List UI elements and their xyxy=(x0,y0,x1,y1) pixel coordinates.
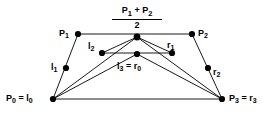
label-r1: r1 xyxy=(167,41,174,50)
dot-p2 xyxy=(189,31,195,37)
label-p0: P0 = l0 xyxy=(6,94,33,103)
label-p1: P1 xyxy=(59,29,69,38)
midpoint-fraction-label: P1 + P2 2 xyxy=(112,6,162,30)
fraction-denominator: 2 xyxy=(112,20,162,30)
label-p2: P2 xyxy=(198,29,208,38)
dot-l3-r0 xyxy=(134,51,140,57)
dot-p1 xyxy=(75,31,81,37)
dot-midpoint-p1-p2 xyxy=(134,34,141,41)
dot-l2 xyxy=(99,50,105,56)
dot-r2 xyxy=(205,65,211,71)
label-l3-r0: l3 = r0 xyxy=(117,62,141,71)
label-l2: l2 xyxy=(88,42,94,51)
dot-l1 xyxy=(63,65,69,71)
bezier-subdivision-figure: P1 + P2 2 P1 P2 l2 r1 l1 r2 l3 = r0 P0 =… xyxy=(0,0,275,122)
label-r2: r2 xyxy=(213,68,220,77)
dot-p0 xyxy=(50,96,56,102)
segment-l2-mid12 xyxy=(102,37,137,53)
segment-l3r0-p3 xyxy=(137,54,222,99)
label-l1: l1 xyxy=(51,63,57,72)
label-p3: P3 = r3 xyxy=(229,94,257,103)
dot-p3 xyxy=(219,96,225,102)
fraction-numerator: P1 + P2 xyxy=(112,6,162,20)
